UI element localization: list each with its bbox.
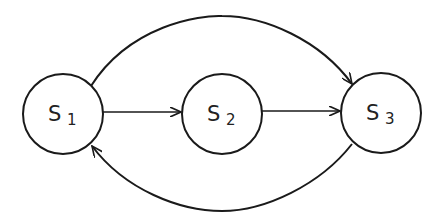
state-label-s2: S bbox=[207, 102, 220, 126]
state-node-s3: S 3 bbox=[341, 73, 421, 153]
state-label-s3: S bbox=[366, 101, 379, 125]
state-subscript-s3: 3 bbox=[385, 110, 395, 128]
state-label-s1: S bbox=[48, 102, 61, 126]
state-diagram: S 1 S 2 S 3 bbox=[0, 0, 443, 221]
state-subscript-s2: 2 bbox=[226, 111, 236, 129]
state-node-s2: S 2 bbox=[182, 74, 262, 154]
state-node-s1: S 1 bbox=[23, 74, 103, 154]
state-subscript-s1: 1 bbox=[67, 111, 77, 129]
